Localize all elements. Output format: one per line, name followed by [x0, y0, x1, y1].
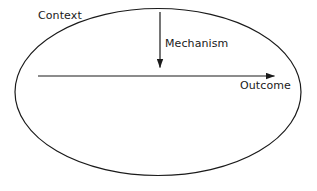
mechanism-label: Mechanism	[165, 37, 228, 50]
outcome-label: Outcome	[240, 79, 291, 92]
diagram-canvas	[0, 0, 317, 191]
context-boundary-ellipse	[15, 9, 301, 176]
context-label: Context	[38, 9, 82, 22]
cmo-diagram: Context Mechanism Outcome	[0, 0, 317, 191]
